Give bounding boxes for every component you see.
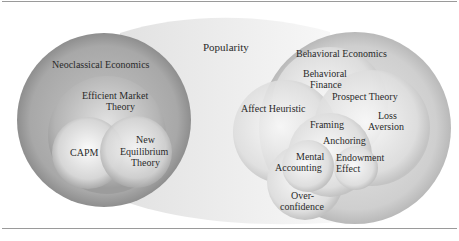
behavioral-finance-label-line2: Finance (310, 79, 342, 90)
capm-label: CAPM (70, 147, 98, 158)
affect-heuristic-label: Affect Heuristic (241, 103, 306, 114)
loss-aversion-label-line2: Aversion (368, 121, 404, 132)
endowment-effect-label-line2: Effect (336, 163, 360, 174)
overconfidence-label-line1: Over- (291, 190, 314, 201)
new-equilibrium-label-line2: Equilibrium (120, 146, 168, 157)
prospect-theory-label: Prospect Theory (332, 91, 398, 102)
framing-label: Framing (310, 119, 344, 130)
behavioral-economics-label: Behavioral Economics (296, 48, 387, 59)
behavioral-finance-label-line1: Behavioral (303, 68, 347, 79)
overconfidence-label-line2: confidence (280, 201, 324, 212)
mental-accounting-label-line2: Accounting (275, 162, 322, 173)
efficient-market-label-line2: Theory (106, 101, 135, 112)
efficient-market-label-line1: Efficient Market (82, 90, 148, 101)
new-equilibrium-label-line1: New (136, 134, 155, 145)
anchoring-label: Anchoring (323, 135, 366, 146)
new-equilibrium-label-line3: Theory (131, 157, 160, 168)
popularity-label: Popularity (203, 42, 249, 53)
endowment-effect-label-line1: Endowment (336, 152, 384, 163)
neoclassical-economics-label: Neoclassical Economics (52, 59, 149, 70)
mental-accounting-label-line1: Mental (296, 151, 324, 162)
loss-aversion-label-line1: Loss (378, 110, 397, 121)
